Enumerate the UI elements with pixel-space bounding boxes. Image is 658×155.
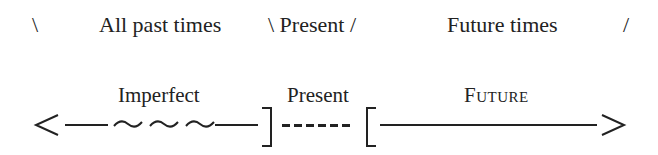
right-slash: / <box>623 14 629 36</box>
arrow-right-icon <box>600 113 626 137</box>
present-dash <box>330 124 338 127</box>
arrow-left-icon <box>34 113 60 137</box>
present-dash <box>342 124 350 127</box>
present-dash <box>282 124 290 127</box>
past-line-start <box>65 124 108 126</box>
wavy-past-line <box>112 116 212 132</box>
present-end-bracket <box>366 107 376 147</box>
past-times-label: All past times <box>99 14 221 36</box>
future-line <box>380 124 597 126</box>
present-start-bracket <box>262 107 272 147</box>
present-dash <box>318 124 326 127</box>
present-dash <box>294 124 302 127</box>
past-line-end <box>215 124 258 126</box>
future-label: Future <box>464 85 529 106</box>
left-slash: \ <box>32 14 38 36</box>
future-times-label: Future times <box>447 14 558 36</box>
present-times-label: \ Present / <box>268 14 356 36</box>
present-dash <box>306 124 314 127</box>
imperfect-label: Imperfect <box>118 85 200 106</box>
present-label: Present <box>287 85 349 106</box>
